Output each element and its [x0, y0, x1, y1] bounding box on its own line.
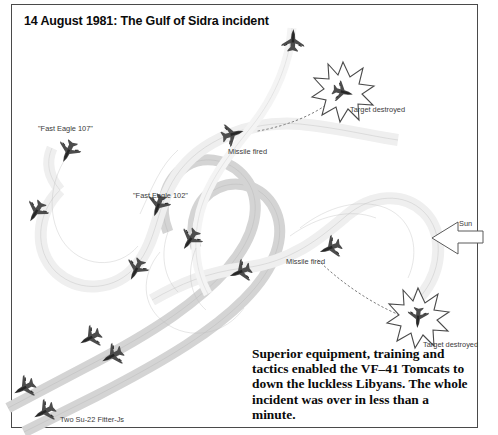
aircraft-fast-eagle-107	[53, 136, 84, 166]
label-missile-fired-lower: Missile fired	[286, 257, 325, 266]
aircraft-tomcat-top	[281, 29, 305, 52]
aircraft-su22-a	[75, 322, 106, 353]
figure-canvas: 14 August 1981: The Gulf of Sidra incide…	[0, 0, 498, 435]
label-target-destroyed-upper: Target destroyed	[350, 105, 405, 114]
label-fast-eagle-107: "Fast Eagle 107"	[38, 124, 93, 133]
caption-text: Superior equipment, training and tactics…	[252, 346, 470, 422]
label-missile-fired-upper: Missile fired	[228, 147, 267, 156]
explosion-lower	[387, 288, 449, 348]
missile-trail-lower	[318, 260, 402, 316]
label-sun: Sun	[459, 219, 472, 228]
label-fast-eagle-102: "Fast Eagle 102"	[133, 191, 188, 200]
label-su22: Two Su-22 Fitter-Js	[60, 415, 124, 424]
